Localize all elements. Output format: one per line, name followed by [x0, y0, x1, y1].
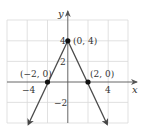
tick-x-neg4: −4	[22, 85, 36, 95]
tick-y-2: 2	[60, 57, 66, 67]
x-axis-label: x	[132, 84, 138, 95]
y-axis-label: y	[57, 8, 64, 19]
label-point-right: (2, 0)	[90, 69, 114, 79]
label-point-vertex: (0, 4)	[73, 36, 97, 46]
tick-y-4: 4	[60, 36, 66, 46]
tick-x-4: 4	[105, 85, 111, 95]
graph: x y −4 4 4 2 −2 (0, 4) (−2, 0) (2, 0)	[0, 0, 145, 137]
point-left-intercept	[45, 79, 50, 84]
label-point-left: (−2, 0)	[20, 69, 52, 79]
point-vertex	[65, 38, 70, 43]
point-right-intercept	[85, 79, 90, 84]
tick-y-neg2: −2	[54, 98, 67, 108]
